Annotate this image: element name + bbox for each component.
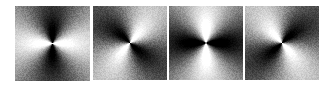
heatmap-panel <box>245 6 319 80</box>
heatmap-canvas <box>169 6 243 80</box>
figure-panel-row <box>0 0 336 86</box>
heatmap-canvas <box>93 6 167 80</box>
heatmap-panel <box>169 6 243 80</box>
heatmap-panel <box>93 6 167 80</box>
heatmap-canvas <box>245 6 319 80</box>
heatmap-canvas <box>15 6 90 81</box>
heatmap-panel <box>15 6 90 81</box>
